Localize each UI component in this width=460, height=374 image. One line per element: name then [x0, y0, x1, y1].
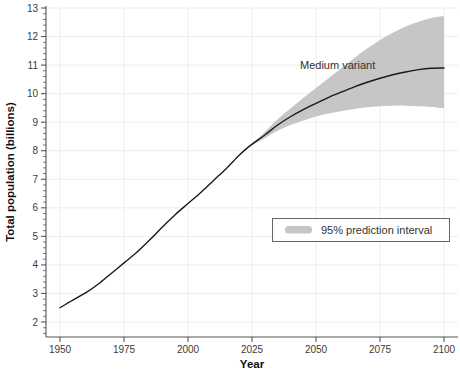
y-axis-major-ticks: [41, 8, 46, 322]
y-tick-label: 10: [27, 88, 39, 99]
x-axis-tick-labels: 1950197520002025205020752100: [49, 344, 456, 355]
y-tick-label: 8: [32, 145, 38, 156]
legend-swatch-prediction-interval: [285, 226, 312, 234]
y-tick-label: 7: [32, 174, 38, 185]
y-tick-label: 11: [28, 60, 39, 71]
x-axis: 1950197520002025205020752100: [46, 337, 458, 355]
y-axis-title: Total population (billions): [4, 102, 16, 242]
legend-label-prediction-interval: 95% prediction interval: [321, 224, 432, 236]
y-tick-label: 3: [32, 288, 38, 299]
y-axis-tick-labels: 2345678910111213: [27, 3, 39, 328]
legend[interactable]: 95% prediction interval: [273, 219, 450, 242]
y-tick-label: 4: [32, 259, 38, 270]
y-tick-label: 12: [27, 31, 39, 42]
medium-variant-annotation: Medium variant: [300, 59, 375, 71]
x-axis-major-ticks: [60, 337, 444, 342]
x-tick-label: 2000: [177, 344, 200, 355]
x-tick-label: 2100: [433, 344, 456, 355]
y-tick-label: 6: [32, 202, 38, 213]
prediction-interval-band: [249, 16, 444, 147]
x-tick-label: 2050: [305, 344, 328, 355]
y-tick-label: 13: [27, 3, 39, 14]
x-tick-label: 1950: [49, 344, 72, 355]
chart-canvas: 2345678910111213 19501975200020252050207…: [0, 0, 460, 374]
x-axis-title: Year: [240, 358, 265, 370]
y-tick-label: 2: [32, 317, 38, 328]
population-projection-chart: 2345678910111213 19501975200020252050207…: [0, 0, 460, 374]
x-tick-label: 2025: [241, 344, 264, 355]
x-tick-label: 1975: [113, 344, 136, 355]
y-tick-label: 9: [32, 117, 38, 128]
y-tick-label: 5: [32, 231, 38, 242]
y-axis: 2345678910111213: [27, 3, 46, 338]
x-tick-label: 2075: [369, 344, 392, 355]
